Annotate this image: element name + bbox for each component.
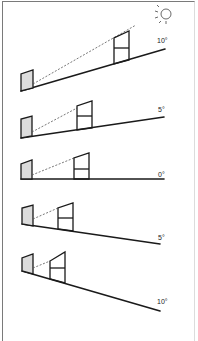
small-building [22,254,33,274]
panel-slope-down-5: 5° [22,203,165,244]
sight-line [33,25,136,84]
tall-building [74,153,89,179]
sight-line [33,208,58,219]
panel-slope-up-5: 5° [21,101,165,138]
small-building [21,116,32,138]
ground-line [22,224,160,244]
angle-label: 10° [157,298,168,305]
angle-label: 5° [158,106,165,113]
ground-line [22,271,160,311]
sight-line [32,108,77,132]
small-building [22,205,33,226]
panel-slope-up-10: 10° [21,25,168,91]
sun-icon [155,5,171,24]
sight-line [33,261,50,268]
panel-slope-down-10: 10° [22,252,168,311]
tall-building [58,203,73,231]
small-building [21,160,32,179]
ground-line [21,49,165,91]
angle-label: 0° [158,171,165,178]
angle-label: 5° [158,234,165,241]
sight-line [32,158,74,175]
angle-label: 10° [157,37,168,44]
small-building [21,70,33,91]
panel-slope-flat-0: 0° [21,153,165,179]
